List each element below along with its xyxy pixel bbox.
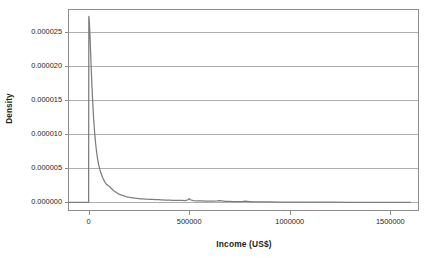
density-chart-figure: 0.0000000.0000050.0000100.0000150.000020… [0,0,433,258]
x-tick-label: 1000000 [250,217,330,226]
x-tick-label: 1500000 [350,217,430,226]
x-axis-tick-labels: 050000010000001500000 [0,0,433,258]
y-axis-title: Density [5,79,14,139]
x-tick-label: 0 [49,217,129,226]
x-axis-title: Income (US$) [68,239,420,249]
x-tick-label: 500000 [149,217,229,226]
